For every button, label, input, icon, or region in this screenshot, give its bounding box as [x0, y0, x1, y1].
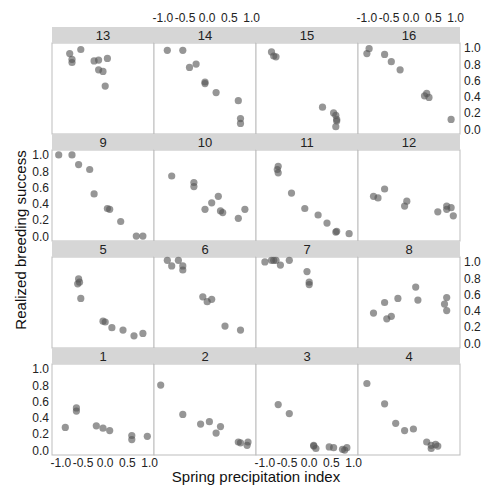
strip-label: 13: [96, 28, 110, 43]
data-point: [370, 310, 377, 317]
data-point: [235, 97, 242, 104]
data-point: [303, 268, 310, 275]
data-point: [179, 411, 186, 418]
y-tick-label: 1.0: [464, 255, 481, 269]
data-point: [272, 53, 279, 60]
panel-15: 15: [256, 27, 358, 134]
data-point: [68, 151, 75, 158]
data-point: [102, 83, 109, 90]
data-point: [190, 183, 197, 190]
panel-area: [52, 364, 154, 455]
strip-label: 2: [201, 349, 208, 364]
data-point: [106, 427, 113, 434]
y-tick-label: 1.0: [32, 362, 49, 376]
strip-label: 3: [303, 349, 310, 364]
data-point: [213, 430, 220, 437]
data-point: [388, 58, 395, 65]
data-point: [346, 230, 353, 237]
data-point: [73, 408, 80, 415]
y-tick-label: 0.6: [464, 288, 481, 302]
x-tick-label: 0.5: [425, 11, 442, 25]
strip-label: 15: [300, 28, 314, 43]
panel-grid: 13141516910111256781234: [52, 27, 460, 455]
y-axis-ticks-left: 0.00.20.40.60.81.00.00.20.40.60.81.0: [32, 148, 49, 457]
data-point: [366, 45, 373, 52]
data-point: [388, 313, 395, 320]
data-point: [133, 233, 140, 240]
x-tick-label: -0.5: [175, 11, 196, 25]
data-point: [99, 425, 106, 432]
x-tick-label: 0.5: [119, 456, 136, 470]
x-tick-label: -1.0: [153, 11, 174, 25]
data-point: [381, 51, 388, 58]
strip-label: 11: [300, 135, 314, 150]
y-tick-label: 0.6: [32, 181, 49, 195]
y-tick-label: 0.0: [464, 123, 481, 137]
data-point: [91, 190, 98, 197]
x-tick-label: -1.0: [357, 11, 378, 25]
y-tick-label: 0.4: [464, 304, 481, 318]
data-point: [139, 330, 146, 337]
data-point: [179, 47, 186, 54]
y-tick-label: 0.8: [32, 165, 49, 179]
x-tick-label: 0.5: [221, 11, 238, 25]
data-point: [412, 284, 419, 291]
x-tick-label: 1.0: [243, 11, 260, 25]
panel-9: 9: [52, 134, 154, 241]
data-point: [139, 233, 146, 240]
x-tick-label: -1.0: [51, 456, 72, 470]
strip-label: 4: [405, 349, 412, 364]
data-point: [241, 206, 248, 213]
data-point: [95, 57, 102, 64]
data-point: [261, 258, 268, 265]
data-point: [237, 439, 244, 446]
y-tick-label: 0.2: [32, 427, 49, 441]
panel-2: 2: [154, 348, 256, 455]
data-point: [381, 185, 388, 192]
data-point: [221, 323, 228, 330]
data-point: [93, 422, 100, 429]
x-tick-label: 1.0: [345, 456, 362, 470]
strip-label: 1: [99, 349, 106, 364]
data-point: [312, 445, 319, 452]
data-point: [397, 66, 404, 73]
data-point: [306, 281, 313, 288]
y-tick-label: 0.4: [464, 90, 481, 104]
data-point: [104, 55, 111, 62]
panel-area: [358, 364, 460, 455]
panel-11: 11: [256, 134, 358, 241]
data-point: [164, 257, 171, 264]
data-point: [197, 421, 204, 428]
y-tick-label: 0.8: [464, 272, 481, 286]
x-tick-label: 1.0: [447, 11, 464, 25]
y-tick-label: 0.6: [464, 74, 481, 88]
y-tick-label: 0.2: [464, 320, 481, 334]
data-point: [343, 444, 350, 451]
data-point: [330, 444, 337, 451]
panel-12: 12: [358, 134, 460, 241]
data-point: [277, 262, 284, 269]
data-point: [286, 410, 293, 417]
panel-5: 5: [52, 241, 154, 348]
data-point: [394, 295, 401, 302]
x-tick-label: 0.0: [97, 456, 114, 470]
panel-13: 13: [52, 27, 154, 134]
data-point: [186, 64, 193, 71]
data-point: [374, 194, 381, 201]
data-point: [403, 198, 410, 205]
faceted-scatter-chart: 13141516910111256781234 -1.0-0.50.00.51.…: [0, 0, 492, 500]
data-point: [144, 433, 151, 440]
y-tick-label: 0.0: [464, 337, 481, 351]
panel-area: [52, 257, 154, 348]
panel-1: 1: [52, 348, 154, 455]
data-point: [275, 401, 282, 408]
data-point: [217, 423, 224, 430]
y-tick-label: 1.0: [464, 41, 481, 55]
y-axis-title: Realized breeding success: [12, 150, 29, 329]
data-point: [448, 204, 455, 211]
data-point: [77, 295, 84, 302]
panel-area: [154, 150, 256, 241]
strip-label: 9: [99, 135, 106, 150]
strip-label: 16: [402, 28, 416, 43]
x-tick-label: 0.0: [403, 11, 420, 25]
